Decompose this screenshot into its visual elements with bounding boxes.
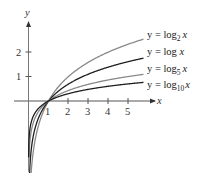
- label-log5: y = log5x: [147, 63, 188, 77]
- log-functions-chart: x y 1 2 3 4 5 1 2 y = log2x y = log x y …: [0, 0, 206, 173]
- y-tick-label: 2: [16, 47, 21, 58]
- x-axis-label: x: [156, 95, 162, 106]
- y-tick-label: 1: [16, 71, 21, 82]
- y-axis-label: y: [24, 7, 30, 18]
- curve-log5: [29, 74, 144, 171]
- x-tick-label: 5: [125, 106, 130, 117]
- x-tick-label: 3: [85, 106, 90, 117]
- x-tick-label: 2: [65, 106, 70, 117]
- curve-log10: [29, 82, 144, 157]
- series-labels: y = log2x y = log x y = log5x y = log10x: [147, 29, 190, 93]
- x-tick-label: 4: [105, 106, 111, 117]
- label-ln: y = log x: [147, 46, 184, 57]
- label-log2: y = log2x: [147, 29, 188, 43]
- label-log10: y = log10x: [147, 79, 190, 93]
